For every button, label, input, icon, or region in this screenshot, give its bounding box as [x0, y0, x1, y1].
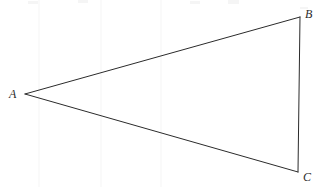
vertex-label-a: A	[9, 88, 16, 100]
edge-ab	[25, 17, 300, 94]
figure-canvas: A B C	[0, 0, 319, 187]
edge-ca	[25, 94, 298, 172]
vertex-label-b: B	[305, 8, 312, 20]
vertex-label-c: C	[303, 171, 311, 183]
triangle-edges	[25, 17, 300, 172]
edge-bc	[298, 17, 300, 172]
triangle-diagram	[0, 0, 319, 187]
